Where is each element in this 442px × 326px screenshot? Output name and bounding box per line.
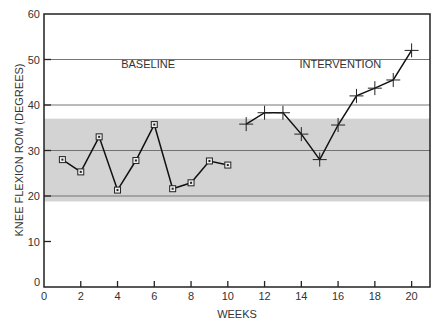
- plus-marker: [386, 73, 400, 87]
- y-tick-label: 10: [28, 236, 40, 248]
- square-marker-dot: [208, 160, 210, 162]
- square-marker-dot: [98, 136, 100, 138]
- y-tick-label: 30: [28, 145, 40, 157]
- x-tick-label: 20: [405, 290, 417, 302]
- x-tick-label: 4: [114, 290, 120, 302]
- x-tick-label: 8: [188, 290, 194, 302]
- variability-band: [44, 119, 430, 202]
- x-tick-label: 12: [258, 290, 270, 302]
- square-marker-dot: [117, 189, 119, 191]
- x-axis: 02468101214161820: [41, 281, 418, 302]
- square-marker-dot: [172, 188, 174, 190]
- square-marker-dot: [80, 171, 82, 173]
- plus-marker: [349, 89, 363, 103]
- x-tick-label: 16: [332, 290, 344, 302]
- square-marker-dot: [153, 124, 155, 126]
- square-marker-dot: [61, 159, 63, 161]
- square-marker-dot: [135, 160, 137, 162]
- x-axis-title: WEEKS: [217, 308, 257, 320]
- band-rect: [44, 119, 430, 202]
- line-chart: 0102030405060 02468101214161820 BASELINE…: [0, 0, 442, 326]
- y-axis-title: KNEE FLEXION ROM (DEGREES): [13, 64, 25, 237]
- square-marker-dot: [190, 182, 192, 184]
- y-tick-label: 60: [28, 8, 40, 20]
- plus-marker: [405, 43, 419, 57]
- plus-marker: [258, 106, 272, 120]
- y-tick-label: 40: [28, 99, 40, 111]
- phase-label: INTERVENTION: [299, 58, 381, 70]
- x-tick-label: 0: [41, 290, 47, 302]
- x-tick-label: 10: [222, 290, 234, 302]
- phase-label: BASELINE: [121, 58, 175, 70]
- y-tick-label: 0: [34, 276, 40, 288]
- y-tick-label: 50: [28, 54, 40, 66]
- x-tick-label: 18: [369, 290, 381, 302]
- x-tick-label: 2: [78, 290, 84, 302]
- y-tick-label: 20: [28, 190, 40, 202]
- x-tick-label: 14: [295, 290, 307, 302]
- square-marker-dot: [227, 164, 229, 166]
- plus-marker: [368, 81, 382, 95]
- x-tick-label: 6: [151, 290, 157, 302]
